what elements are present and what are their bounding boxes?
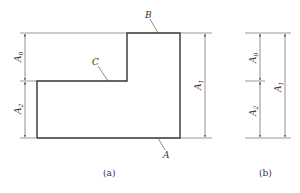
dimension-chain-diagram: A0 A2 A1 B C A (a) A0 A2 A1 (b) xyxy=(0,0,300,193)
dimension-lines-a xyxy=(25,34,205,137)
dim-label-a2: A2 xyxy=(13,104,24,116)
part-outline xyxy=(37,33,180,138)
dim-label-a1: A1 xyxy=(193,80,204,91)
surface-label-a: A xyxy=(162,150,170,160)
dim-label-a0: A0 xyxy=(13,52,24,64)
extension-lines xyxy=(20,33,212,138)
caption-b: (b) xyxy=(259,168,272,178)
chain-lines-b xyxy=(245,33,291,138)
dim-label-b-a0: A0 xyxy=(248,53,259,65)
dim-label-b-a1: A1 xyxy=(273,82,284,93)
surface-label-c: C xyxy=(92,57,99,67)
dim-label-b-a2: A2 xyxy=(248,106,259,118)
leader-lines xyxy=(98,19,165,150)
surface-label-b: B xyxy=(144,10,152,20)
caption-a: (a) xyxy=(103,168,115,178)
